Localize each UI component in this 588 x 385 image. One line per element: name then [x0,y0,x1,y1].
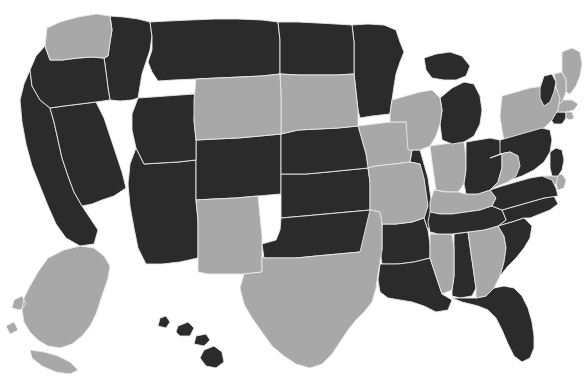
us-map-svg: AlabamaAlaskaArizonaArkansasCaliforniaCo… [0,0,588,385]
state-nd[interactable]: North Dakota [278,22,354,75]
state-nj[interactable]: New Jersey [550,148,564,176]
states-layer: AlabamaAlaskaArizonaArkansasCaliforniaCo… [6,14,582,374]
state-wy[interactable]: Wyoming [194,74,281,140]
state-ut[interactable]: Utah [132,94,196,164]
state-ne[interactable]: Nebraska [281,126,368,174]
state-sd[interactable]: South Dakota [280,74,358,134]
state-in[interactable]: Indiana [430,142,466,192]
state-co[interactable]: Colorado [196,134,281,200]
state-ar[interactable]: Arkansas [378,218,430,264]
state-wa[interactable]: Washington [45,14,112,60]
state-ak[interactable]: Alaska [6,246,110,374]
us-choropleth-map: AlabamaAlaskaArizonaArkansasCaliforniaCo… [0,0,588,385]
state-mt[interactable]: Montana [148,19,280,81]
state-ks[interactable]: Kansas [281,168,370,218]
state-ri[interactable]: Rhode Island [566,112,574,120]
state-hi[interactable]: Hawaii [158,316,224,368]
state-az[interactable]: Arizona [128,148,198,264]
state-nm[interactable]: New Mexico [196,196,262,274]
